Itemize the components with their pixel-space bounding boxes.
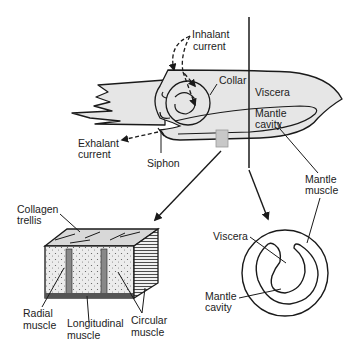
mantle-cross-section: [239, 198, 328, 316]
label-longitudinal-2: muscle: [67, 329, 100, 341]
label-viscera-cross: Viscera: [213, 230, 248, 242]
label-radial-2: muscle: [23, 319, 56, 331]
arrow-to-cross-section: [249, 170, 268, 219]
label-circular-2: muscle: [131, 326, 164, 338]
label-siphon: Siphon: [147, 157, 180, 169]
squid-arms: [72, 80, 165, 125]
label-exhalant-2: current: [78, 148, 111, 160]
label-inhalant: Inhalant: [192, 28, 229, 40]
label-collar: Collar: [219, 74, 247, 86]
label-longitudinal: Longitudinal: [67, 317, 124, 329]
muscle-tissue-block: [42, 214, 158, 322]
label-inhalant-2: current: [193, 40, 226, 52]
squid-anatomy-diagram: Inhalant current Collar Viscera Mantle c…: [0, 0, 358, 360]
label-circular: Circular: [131, 314, 168, 326]
exhalant-arrow: [122, 132, 158, 140]
label-viscera-top: Viscera: [255, 86, 290, 98]
inhalant-arrow: [173, 36, 190, 70]
label-mantle-cavity-top-2: cavity: [255, 118, 283, 130]
label-mantle-muscle-2: muscle: [305, 184, 338, 196]
label-collagen-2: trellis: [17, 214, 42, 226]
sample-region: [216, 130, 228, 147]
label-radial: Radial: [23, 307, 53, 319]
label-mantle-cavity-cross-2: cavity: [205, 301, 233, 313]
